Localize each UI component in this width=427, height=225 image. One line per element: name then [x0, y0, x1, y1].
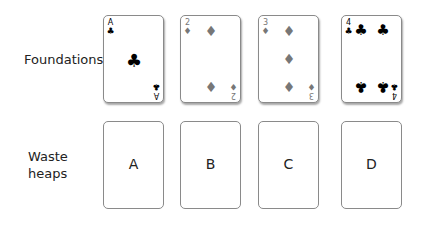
club-icon: ♣	[126, 52, 142, 70]
waste-heap-label: D	[342, 156, 401, 172]
foundation-card-3-diamonds[interactable]: 3 ♦ ♦ ♦ ♦ 3 ♦	[258, 15, 319, 103]
club-icon: ♣	[344, 27, 353, 36]
waste-heap-label: C	[259, 156, 318, 172]
diamond-icon: ♦	[282, 80, 296, 94]
waste-heap-d[interactable]: D	[341, 121, 402, 209]
foundation-card-4-clubs[interactable]: 4 ♣ ♣ ♣ ♣ ♣ 4 ♣	[341, 15, 402, 103]
club-icon: ♣	[354, 80, 368, 94]
waste-label-line2: heaps	[28, 165, 68, 182]
card-index-bottom: 2 ♦	[229, 82, 238, 99]
club-icon: ♣	[354, 23, 368, 37]
diamond-icon: ♦	[183, 27, 192, 36]
club-icon: ♣	[106, 27, 115, 36]
diamond-icon: ♦	[204, 24, 218, 38]
waste-heaps-label: Waste heaps	[28, 148, 68, 182]
card-index-bottom: A ♣	[152, 82, 161, 99]
club-icon: ♣	[376, 23, 390, 37]
waste-heap-label: B	[181, 156, 240, 172]
foundations-label: Foundations	[24, 51, 103, 68]
waste-heap-c[interactable]: C	[258, 121, 319, 209]
diamond-icon: ♦	[204, 80, 218, 94]
club-icon: ♣	[390, 82, 399, 91]
card-index-bottom: 3 ♦	[307, 82, 316, 99]
card-index-bottom: 4 ♣	[390, 82, 399, 99]
waste-label-line1: Waste	[28, 148, 68, 165]
diamond-icon: ♦	[307, 82, 316, 91]
club-icon: ♣	[152, 82, 161, 91]
diamond-icon: ♦	[282, 52, 296, 66]
foundation-card-ace-clubs[interactable]: A ♣ ♣ A ♣	[103, 15, 164, 103]
club-icon: ♣	[376, 80, 390, 94]
waste-heap-a[interactable]: A	[103, 121, 164, 209]
foundation-card-2-diamonds[interactable]: 2 ♦ ♦ ♦ 2 ♦	[180, 15, 241, 103]
card-index-top: 3 ♦	[261, 19, 270, 36]
diamond-icon: ♦	[282, 24, 296, 38]
card-index-top: 2 ♦	[183, 19, 192, 36]
waste-heap-label: A	[104, 156, 163, 172]
card-index-top: 4 ♣	[344, 19, 353, 36]
diamond-icon: ♦	[229, 82, 238, 91]
waste-heap-b[interactable]: B	[180, 121, 241, 209]
card-index-top: A ♣	[106, 19, 115, 36]
diamond-icon: ♦	[261, 27, 270, 36]
